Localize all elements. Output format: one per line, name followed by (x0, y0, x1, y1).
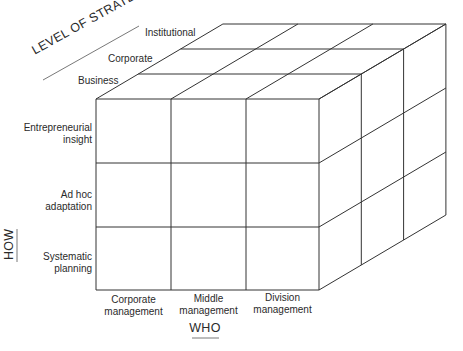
grid-line (319, 152, 446, 227)
how-systematic: Systematic planning (0, 251, 92, 275)
level-institutional: Institutional (145, 27, 196, 39)
how-entrepreneurial: Entrepreneurial insight (0, 122, 92, 146)
grid-line (319, 24, 446, 99)
grid-line (319, 88, 446, 163)
who-corporate: Corporate management (96, 294, 171, 318)
level-corporate: Corporate (108, 53, 152, 65)
grid-line (246, 24, 373, 99)
level-business: Business (78, 75, 119, 87)
who-division: Division management (246, 292, 319, 316)
who-middle: Middle management (171, 293, 246, 317)
who-axis-title: WHO (180, 322, 230, 334)
grid-line (319, 215, 446, 290)
how-adhoc: Ad hoc adaptation (0, 189, 92, 213)
